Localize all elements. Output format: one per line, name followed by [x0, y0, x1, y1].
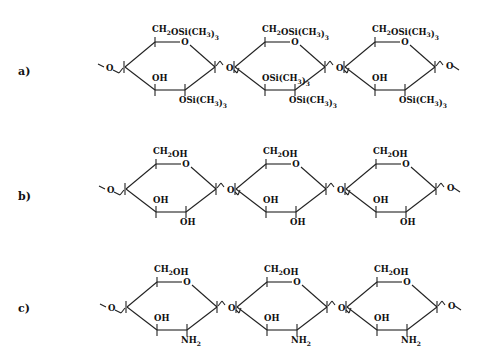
- bond-line: [455, 306, 461, 310]
- glycosidic-oxygen: O: [228, 303, 236, 313]
- c3-substituent-label: OH: [153, 195, 168, 205]
- terminal-oxygen-right: O: [447, 183, 455, 193]
- sugar-ring-unit: OCH2OHOHNH2O: [346, 264, 461, 347]
- bond-line: [217, 183, 221, 188]
- bond-line: [345, 42, 375, 67]
- bond-line: [345, 67, 375, 90]
- bond-line: [237, 307, 267, 330]
- bond-line: [185, 67, 215, 90]
- bond-line: [347, 307, 377, 330]
- c2-substituent-label: NH2: [401, 335, 421, 347]
- sugar-ring-unit: OCH2OHOHOHO: [125, 146, 240, 227]
- structure-row-c: c)OOCH2OHOHNH2OOCH2OHOHNH2OOCH2OHOHNH2O: [18, 264, 461, 347]
- bond-line: [115, 310, 121, 313]
- bond-line: [330, 61, 333, 65]
- ring-oxygen: O: [183, 277, 191, 287]
- bond-line: [235, 42, 265, 67]
- terminal-oxygen-left: O: [108, 303, 116, 313]
- bond-line: [125, 67, 155, 90]
- bond-line: [125, 42, 155, 67]
- bond-line: [190, 45, 215, 67]
- c3-substituent-label: OH: [264, 313, 279, 323]
- c6-substituent-label: CH2OH: [153, 146, 187, 159]
- c2-substituent-label: OH: [290, 217, 305, 227]
- bond-line: [411, 167, 436, 189]
- ring-oxygen: O: [291, 37, 299, 47]
- bond-line: [98, 64, 104, 67]
- bond-line: [347, 282, 377, 307]
- glycosidic-oxygen: O: [337, 185, 345, 195]
- c3-substituent-label: OSi(CH3)3: [262, 73, 310, 87]
- bond-line: [120, 190, 124, 195]
- c6-substituent-label: CH2OH: [264, 264, 298, 277]
- bond-line: [332, 301, 335, 305]
- bond-line: [186, 189, 216, 212]
- ring-oxygen: O: [401, 37, 409, 47]
- bond-line: [297, 307, 327, 330]
- bond-line: [99, 186, 105, 189]
- bond-line: [220, 61, 223, 65]
- sugar-ring-unit: OCH2OHOHOHO: [345, 146, 460, 227]
- structure-row-a: a)OOCH2OSi(CH3)3OHOSi(CH3)3OOCH2OSi(CH3)…: [18, 24, 459, 109]
- bond-line: [236, 189, 266, 212]
- bond-line: [235, 67, 265, 90]
- ring-oxygen: O: [403, 277, 411, 287]
- ring-oxygen: O: [182, 159, 190, 169]
- sugar-ring-unit: OCH2OHOHNH2O: [236, 264, 351, 347]
- c6-substituent-label: CH2OH: [373, 146, 407, 159]
- sugar-ring-unit: OCH2OSi(CH3)3OHOSi(CH3)3O: [344, 24, 459, 109]
- bond-line: [412, 285, 437, 307]
- glycosidic-oxygen: O: [227, 185, 235, 195]
- terminal-oxygen-right: O: [448, 301, 456, 311]
- bond-line: [441, 183, 444, 187]
- bond-line: [407, 307, 437, 330]
- c6-substituent-label: CH2OH: [154, 264, 188, 277]
- bond-line: [302, 285, 327, 307]
- ring-oxygen: O: [292, 159, 300, 169]
- c6-substituent-label: CH2OH: [263, 146, 297, 159]
- sugar-ring-unit: OCH2OHOHNH2O: [126, 264, 241, 347]
- bond-line: [127, 282, 157, 307]
- bond-line: [191, 167, 216, 189]
- c3-substituent-label: OH: [372, 73, 387, 83]
- bond-line: [410, 45, 435, 67]
- bond-line: [331, 183, 334, 187]
- sugar-ring-unit: OCH2OSi(CH3)3OHOSi(CH3)3O: [124, 24, 239, 109]
- c2-substituent-label: OSi(CH3)3: [289, 95, 337, 109]
- bond-line: [216, 61, 220, 66]
- c3-substituent-label: OH: [373, 195, 388, 205]
- structure-row-b: b)OOCH2OHOHOHOOCH2OHOHOHOOCH2OHOHOHO: [18, 146, 460, 227]
- bond-line: [328, 301, 332, 306]
- c2-substituent-label: NH2: [181, 335, 201, 347]
- ring-oxygen: O: [293, 277, 301, 287]
- bond-line: [438, 301, 442, 306]
- bond-line: [442, 301, 445, 305]
- bond-line: [127, 307, 157, 330]
- ring-oxygen: O: [181, 37, 189, 47]
- bond-line: [326, 61, 330, 66]
- bond-line: [436, 61, 440, 66]
- row-label: b): [18, 190, 31, 203]
- bond-line: [406, 189, 436, 212]
- polysaccharide-structures-diagram: a)OOCH2OSi(CH3)3OHOSi(CH3)3OOCH2OSi(CH3)…: [0, 0, 483, 361]
- c3-substituent-label: OH: [154, 313, 169, 323]
- bond-line: [440, 61, 443, 65]
- bond-line: [218, 301, 222, 306]
- bond-line: [301, 167, 326, 189]
- sugar-ring-unit: OCH2OSi(CH3)3OSi(CH3)3OSi(CH3)3O: [234, 24, 349, 109]
- bond-line: [327, 183, 331, 188]
- sugar-ring-unit: OCH2OHOHOHO: [235, 146, 350, 227]
- row-label: a): [18, 65, 30, 78]
- c2-substituent-label: OSi(CH3)3: [179, 95, 227, 109]
- bond-line: [192, 285, 217, 307]
- terminal-oxygen-right: O: [446, 61, 454, 71]
- bond-line: [453, 66, 459, 70]
- terminal-oxygen-left: O: [106, 63, 114, 73]
- glycosidic-oxygen: O: [226, 63, 234, 73]
- c6-substituent-label: CH2OH: [374, 264, 408, 277]
- bond-line: [222, 301, 225, 305]
- bond-line: [236, 164, 266, 189]
- bond-line: [454, 188, 460, 192]
- terminal-oxygen-left: O: [107, 185, 115, 195]
- bond-line: [126, 189, 156, 212]
